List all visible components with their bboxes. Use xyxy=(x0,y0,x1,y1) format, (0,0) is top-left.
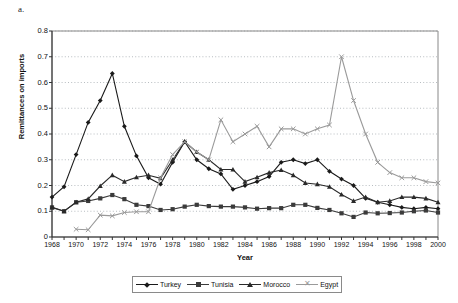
data-point-marker xyxy=(375,160,380,165)
data-point-marker xyxy=(195,203,199,207)
data-point-marker xyxy=(279,206,283,210)
data-point-marker xyxy=(243,183,248,188)
diamond-icon xyxy=(136,280,158,289)
data-point-marker xyxy=(436,206,441,211)
data-point-marker xyxy=(436,210,440,214)
data-point-marker xyxy=(122,197,126,201)
legend-item-morocco[interactable]: Morocco xyxy=(239,280,290,289)
legend-item-tunisia[interactable]: Tunisia xyxy=(187,280,233,289)
data-point-marker xyxy=(110,193,114,197)
series-line xyxy=(52,73,438,208)
plot-area xyxy=(0,0,458,303)
data-point-marker xyxy=(387,170,392,175)
series-morocco xyxy=(50,139,441,213)
x-tick-label: 2000 xyxy=(423,241,453,248)
data-point-marker xyxy=(399,205,404,210)
x-icon: ✕ xyxy=(296,280,318,289)
chart-legend: TurkeyTunisiaMorocco✕Egypt xyxy=(132,276,342,293)
data-point-marker xyxy=(255,207,259,211)
data-point-marker xyxy=(255,124,260,129)
data-point-marker xyxy=(243,132,248,137)
series-turkey xyxy=(50,71,441,211)
data-point-marker xyxy=(339,192,344,197)
data-point-marker xyxy=(86,120,91,125)
data-point-marker xyxy=(291,157,296,162)
data-point-marker xyxy=(279,167,284,172)
data-point-marker xyxy=(134,203,138,207)
legend-item-turkey[interactable]: Turkey xyxy=(136,280,181,289)
data-point-marker xyxy=(243,205,247,209)
series-line xyxy=(52,142,438,212)
data-point-marker xyxy=(303,132,308,137)
legend-item-egypt[interactable]: ✕Egypt xyxy=(296,280,338,289)
legend-label: Egypt xyxy=(320,281,338,288)
data-point-marker xyxy=(231,205,235,209)
data-point-marker xyxy=(387,202,392,207)
data-point-marker xyxy=(171,207,175,211)
data-point-marker xyxy=(158,208,162,212)
data-point-marker xyxy=(183,205,187,209)
data-point-marker xyxy=(412,209,416,213)
data-point-marker xyxy=(400,210,404,214)
data-point-marker xyxy=(424,208,428,212)
data-point-marker xyxy=(98,98,103,103)
data-point-marker xyxy=(110,173,115,178)
data-point-marker xyxy=(267,145,272,150)
legend-label: Tunisia xyxy=(211,281,233,288)
data-point-marker xyxy=(74,152,79,157)
data-point-marker xyxy=(170,152,175,157)
data-point-marker xyxy=(303,161,308,166)
data-point-marker xyxy=(98,196,102,200)
legend-label: Morocco xyxy=(263,281,290,288)
data-point-marker xyxy=(207,204,211,208)
data-point-marker xyxy=(231,139,236,144)
data-point-marker xyxy=(110,71,115,76)
square-icon xyxy=(187,280,209,289)
data-point-marker xyxy=(303,203,307,207)
data-point-marker xyxy=(388,211,392,215)
data-point-marker xyxy=(351,215,355,219)
data-point-marker xyxy=(134,153,139,158)
triangle-icon xyxy=(239,280,261,289)
data-point-marker xyxy=(339,211,343,215)
data-point-marker xyxy=(364,210,368,214)
legend-label: Turkey xyxy=(160,281,181,288)
series-egypt xyxy=(74,54,440,232)
chart-figure: a. Remittances on imports Year 0.80.70.6… xyxy=(0,0,458,303)
data-point-marker xyxy=(219,205,223,209)
data-point-marker xyxy=(315,206,319,210)
data-point-marker xyxy=(376,211,380,215)
data-point-marker xyxy=(291,203,295,207)
data-point-marker xyxy=(122,124,127,129)
data-point-marker xyxy=(255,179,260,184)
data-point-marker xyxy=(267,206,271,210)
data-point-marker xyxy=(327,208,331,212)
